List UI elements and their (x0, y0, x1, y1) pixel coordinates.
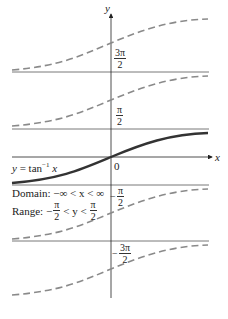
origin-label: 0 (114, 161, 120, 172)
domain-text: Domain: −∞ < x < ∞ (12, 188, 104, 199)
branch-minus-2pi (12, 245, 208, 295)
range-text: Range: − π2 < y < π2 (12, 200, 97, 222)
y-axis-label: y (105, 3, 110, 14)
tick-neg-3pi-over-2: 3π2 (119, 243, 131, 265)
arctan-curve (12, 133, 208, 183)
branch-plus-2pi (12, 19, 208, 70)
tick-3pi-over-2: 3π2 (114, 48, 126, 70)
curve-label: y = tan−1 x (12, 162, 57, 174)
tick-neg-pi-over-2: π2 (117, 186, 124, 208)
x-axis-label: x (215, 152, 220, 163)
branch-plus-pi (12, 76, 208, 126)
tick-neg-sign-2: − (112, 249, 118, 259)
tick-neg-sign: − (110, 192, 116, 202)
tick-pi-over-2: π2 (116, 105, 123, 127)
